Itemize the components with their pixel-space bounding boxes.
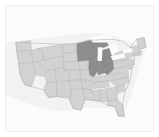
state-oklahoma[interactable] bbox=[69, 80, 83, 90]
state-iowa[interactable] bbox=[78, 60, 89, 70]
map-frame[interactable]: United States (contiguous 48 states) bbox=[5, 5, 154, 132]
state-north-dakota[interactable] bbox=[62, 43, 77, 53]
state-washington[interactable] bbox=[16, 40, 32, 51]
state-nebraska[interactable] bbox=[63, 61, 80, 70]
state-new-mexico[interactable] bbox=[56, 81, 71, 98]
state-utah[interactable] bbox=[45, 69, 56, 83]
state-oregon[interactable] bbox=[17, 50, 33, 64]
state-mississippi[interactable] bbox=[93, 90, 101, 102]
state-georgia[interactable] bbox=[107, 87, 118, 102]
state-alabama[interactable] bbox=[100, 89, 108, 102]
us-map-graphic[interactable] bbox=[6, 6, 153, 131]
state-minnesota-highlighted[interactable] bbox=[77, 40, 90, 61]
state-idaho[interactable] bbox=[32, 48, 44, 62]
map-panel: United States (contiguous 48 states) bbox=[0, 0, 159, 137]
state-south-dakota[interactable] bbox=[63, 52, 78, 62]
